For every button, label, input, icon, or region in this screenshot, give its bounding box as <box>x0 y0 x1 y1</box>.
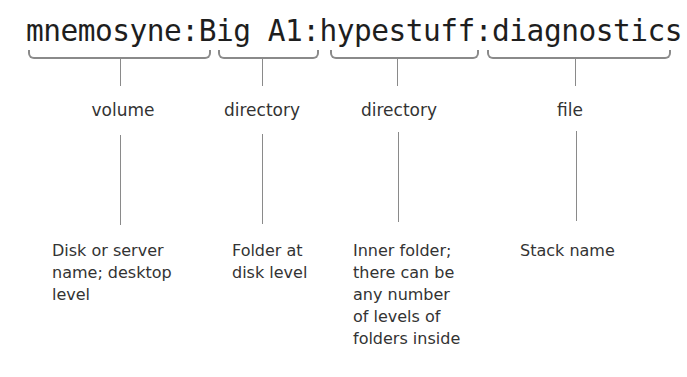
description-line: Folder at <box>232 240 307 262</box>
connector-file-bottom <box>576 131 577 221</box>
connector-directory-1-top <box>262 59 263 86</box>
description-directory-2: Inner folder; there can be any number of… <box>353 240 460 350</box>
connector-directory-2-top <box>397 59 398 86</box>
path-segment-directory-1: Big A1 <box>199 14 303 48</box>
description-directory-1: Folder at disk level <box>232 240 307 284</box>
description-line: Stack name <box>520 240 615 262</box>
label-file: file <box>557 100 583 120</box>
pathname: mnemosyne:Big A1:hypestuff:diagnostics <box>26 14 682 48</box>
label-volume: volume <box>92 100 155 120</box>
bracket-directory-1 <box>218 50 319 59</box>
description-line: there can be <box>353 262 460 284</box>
label-directory-1: directory <box>224 100 300 120</box>
description-line: Disk or server <box>52 240 172 262</box>
path-segment-volume: mnemosyne <box>26 14 181 48</box>
description-line: any number <box>353 284 460 306</box>
path-separator: : <box>302 14 319 48</box>
description-line: folders inside <box>353 328 460 350</box>
bracket-file <box>487 50 671 59</box>
connector-directory-1-bottom <box>262 134 263 224</box>
description-volume: Disk or server name; desktop level <box>52 240 172 306</box>
bracket-volume <box>28 50 211 59</box>
description-line: disk level <box>232 262 307 284</box>
bracket-directory-2 <box>330 50 479 59</box>
description-line: of levels of <box>353 306 460 328</box>
connector-directory-2-bottom <box>398 132 399 222</box>
description-line: level <box>52 284 172 306</box>
path-segment-file: diagnostics <box>492 14 682 48</box>
description-line: Inner folder; <box>353 240 460 262</box>
description-file: Stack name <box>520 240 615 262</box>
connector-volume-top <box>120 59 121 86</box>
description-line: name; desktop <box>52 262 172 284</box>
path-segment-directory-2: hypestuff <box>319 14 474 48</box>
connector-volume-bottom <box>120 135 121 225</box>
path-separator: : <box>181 14 198 48</box>
connector-file-top <box>575 59 576 86</box>
path-separator: : <box>475 14 492 48</box>
label-directory-2: directory <box>361 100 437 120</box>
